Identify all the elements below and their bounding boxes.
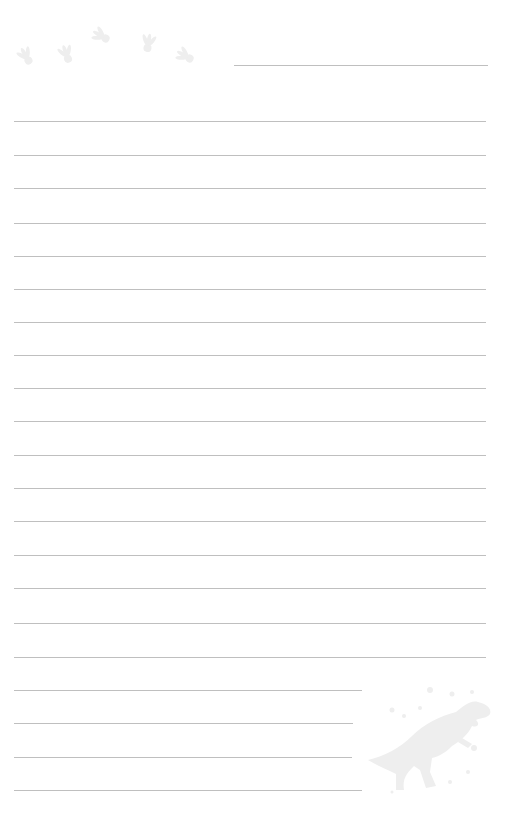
dinosaur-footprint-icon — [139, 32, 158, 53]
footprint-trail — [14, 24, 197, 68]
dinosaur-footprint-icon — [173, 44, 197, 68]
lined-paper-page — [0, 0, 512, 820]
decorations — [0, 0, 512, 820]
dinosaur-footprint-icon — [14, 44, 38, 68]
t-rex-silhouette-icon — [368, 687, 490, 794]
dinosaur-footprint-icon — [89, 24, 113, 48]
dinosaur-footprint-icon — [55, 42, 77, 65]
